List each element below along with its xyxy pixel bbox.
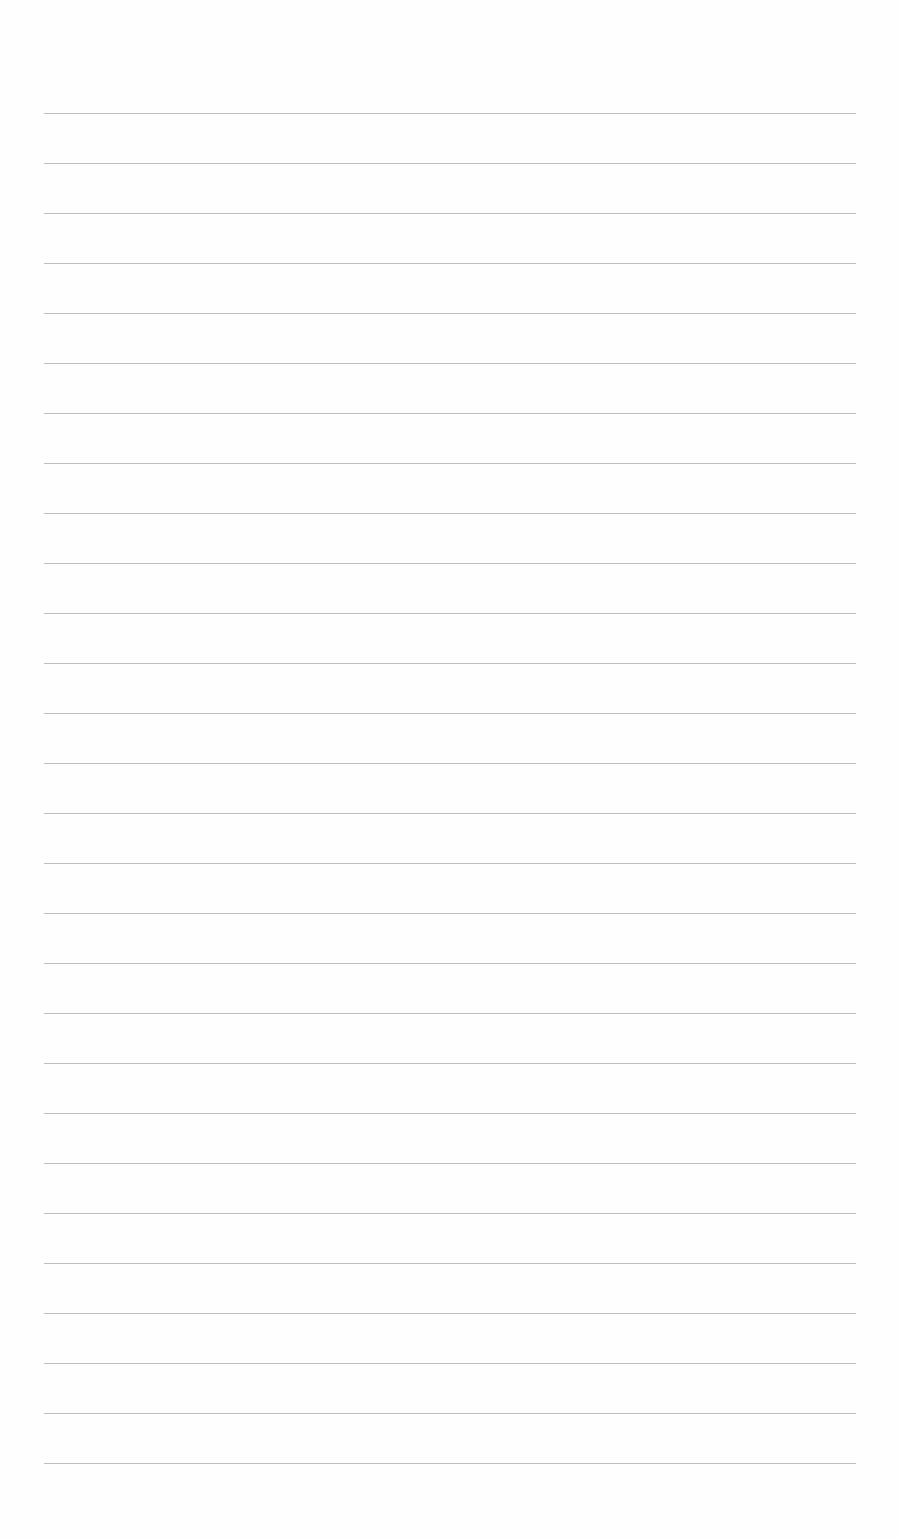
ruled-line (44, 1363, 856, 1364)
ruled-line (44, 313, 856, 314)
ruled-line (44, 613, 856, 614)
ruled-line (44, 1013, 856, 1014)
ruled-line (44, 363, 856, 364)
ruled-line (44, 1313, 856, 1314)
ruled-line (44, 763, 856, 764)
ruled-line (44, 513, 856, 514)
ruled-line (44, 1413, 856, 1414)
ruled-line (44, 813, 856, 814)
ruled-line (44, 263, 856, 264)
ruled-line (44, 163, 856, 164)
ruled-line (44, 663, 856, 664)
ruled-line (44, 213, 856, 214)
ruled-line (44, 713, 856, 714)
ruled-line (44, 913, 856, 914)
ruled-line (44, 863, 856, 864)
lined-paper-page (0, 0, 899, 1539)
ruled-line (44, 1113, 856, 1114)
ruled-line (44, 413, 856, 414)
ruled-line (44, 563, 856, 564)
ruled-line (44, 1463, 856, 1464)
ruled-line (44, 113, 856, 114)
ruled-line (44, 1213, 856, 1214)
ruled-line (44, 1163, 856, 1164)
ruled-line (44, 1263, 856, 1264)
ruled-line (44, 1063, 856, 1064)
ruled-line (44, 463, 856, 464)
ruled-line (44, 963, 856, 964)
